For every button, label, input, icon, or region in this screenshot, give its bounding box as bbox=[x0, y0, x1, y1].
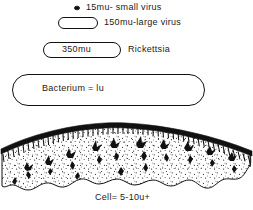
bacterium-label: Bacterium = lu bbox=[42, 83, 104, 93]
large-virus-label: 150mu-large virus bbox=[104, 17, 181, 27]
figure-canvas bbox=[0, 0, 253, 210]
small-virus-label: 15mu- small virus bbox=[86, 2, 162, 12]
rickettsia-size-text: 350mu bbox=[62, 44, 91, 54]
small-virus-dot bbox=[74, 6, 79, 10]
scale-comparison-figure: 15mu- small virus 150mu-large virus 350m… bbox=[0, 0, 253, 210]
cell-cross-section bbox=[1, 123, 252, 190]
large-virus-capsule bbox=[59, 18, 98, 29]
rickettsia-label: Rickettsia bbox=[128, 44, 170, 54]
cell-caption: Cell= 5-10u+ bbox=[95, 192, 150, 202]
